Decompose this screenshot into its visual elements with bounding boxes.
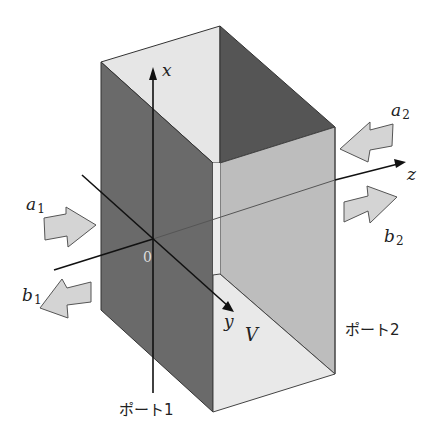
z-axis-arrowhead	[394, 159, 406, 168]
b2-label-sub: 2	[396, 234, 404, 248]
b1-label: b1	[22, 287, 42, 306]
y-axis-label: y	[224, 313, 234, 330]
volume-label: V	[245, 326, 258, 344]
z-axis-right	[335, 164, 398, 180]
b2-label-base: b	[384, 226, 395, 246]
a1-arrow	[44, 207, 96, 247]
b1-label-sub: 1	[34, 293, 42, 307]
a2-arrow	[340, 122, 393, 162]
b1-label-base: b	[22, 285, 33, 305]
port1-label: ポート1	[119, 403, 174, 418]
origin-label: 0	[143, 250, 152, 264]
b2-arrow	[344, 186, 397, 223]
b1-arrow	[40, 279, 91, 318]
b2-label: b2	[384, 228, 404, 247]
a1-label-base: a	[26, 194, 36, 214]
port2-label: ポート2	[345, 323, 400, 338]
z-axis-label: z	[407, 166, 416, 183]
a2-label-sub: 2	[402, 108, 410, 122]
diagram-canvas	[0, 0, 438, 446]
a1-label-sub: 1	[37, 202, 45, 216]
a1-label: a1	[26, 196, 45, 215]
a2-label-base: a	[391, 100, 401, 120]
two-port-diagram: x y z 0 a1 b1 a2 b2 V ポート1 ポート2	[0, 0, 438, 446]
x-axis-label: x	[162, 62, 172, 79]
a2-label: a2	[391, 102, 410, 121]
